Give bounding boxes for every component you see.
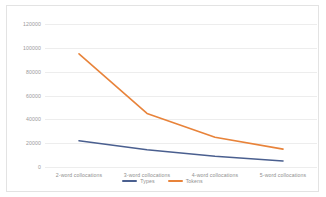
plot-area: 020000400006000080000100000120000 2-word… — [45, 24, 317, 167]
legend-entry-tokens[interactable]: Tokens — [168, 178, 203, 184]
y-axis-tick-label: 100000 — [23, 45, 41, 51]
legend-label-tokens: Tokens — [186, 178, 203, 184]
legend-entry-types[interactable]: Types — [122, 178, 154, 184]
y-axis-tick-label: 80000 — [26, 69, 41, 75]
series-lines — [45, 24, 317, 167]
legend-label-types: Types — [140, 178, 154, 184]
y-axis-tick-label: 40000 — [26, 116, 41, 122]
legend-swatch-tokens-icon — [168, 180, 183, 182]
chart-legend: Types Tokens — [7, 178, 318, 184]
y-axis-tick-label: 60000 — [26, 93, 41, 99]
y-axis-tick-label: 20000 — [26, 140, 41, 146]
y-axis-tick-label: 0 — [38, 164, 41, 170]
chart-frame: 020000400006000080000100000120000 2-word… — [6, 5, 319, 192]
series-line-tokens — [79, 54, 283, 149]
gridline — [45, 167, 317, 168]
y-axis-tick-label: 120000 — [23, 21, 41, 27]
legend-swatch-types-icon — [122, 180, 137, 182]
line-chart-figure: 020000400006000080000100000120000 2-word… — [0, 0, 326, 197]
